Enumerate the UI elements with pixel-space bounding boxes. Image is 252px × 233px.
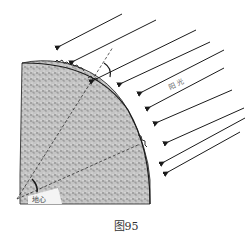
earth-quarter-section	[20, 60, 150, 204]
earth-center-label: 地心	[32, 194, 46, 204]
figure-caption: 图95	[0, 217, 252, 233]
